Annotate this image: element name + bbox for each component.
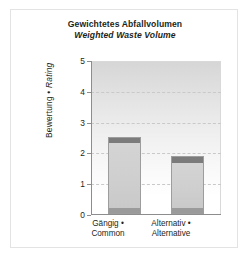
chart-title-en: Weighted Waste Volume [11,30,239,41]
y-axis-title-en: Rating [44,63,54,88]
y-tick-label-5: 5 [80,56,85,66]
tick-mark-5 [87,61,91,62]
tick-mark-4 [87,92,91,93]
x-axis-label-alternative-en: Alternative [125,229,217,239]
tick-mark-0 [87,215,91,216]
bar-alternative[interactable] [171,156,204,215]
tick-mark-1 [87,184,91,185]
bar-alternative-outline [171,156,204,215]
x-axis-label-alternative-de: Alternativ • [125,219,217,229]
y-axis-title-separator: • [44,88,54,94]
x-axis-line [91,214,221,215]
bar-common[interactable] [108,137,141,214]
y-axis-title: Bewertung • Rating [44,63,54,138]
x-axis-label-alternative: Alternativ • Alternative [125,219,217,239]
plot-area: 5 4 3 2 1 0 [91,61,221,215]
y-tick-label-2: 2 [80,148,85,158]
y-tick-label-3: 3 [80,118,85,128]
y-tick-label-1: 1 [80,179,85,189]
tick-mark-2 [87,153,91,154]
y-tick-label-4: 4 [80,87,85,97]
y-axis-title-de: Bewertung [44,96,54,138]
gridline-4 [91,92,221,93]
tick-mark-3 [87,123,91,124]
chart-title-block: Gewichtetes Abfallvolumen Weighted Waste… [11,19,239,41]
y-axis-line [91,61,92,215]
chart-figure: Gewichtetes Abfallvolumen Weighted Waste… [10,9,238,248]
bar-common-outline [108,137,141,214]
gridline-3 [91,123,221,124]
chart-title-de: Gewichtetes Abfallvolumen [11,19,239,30]
